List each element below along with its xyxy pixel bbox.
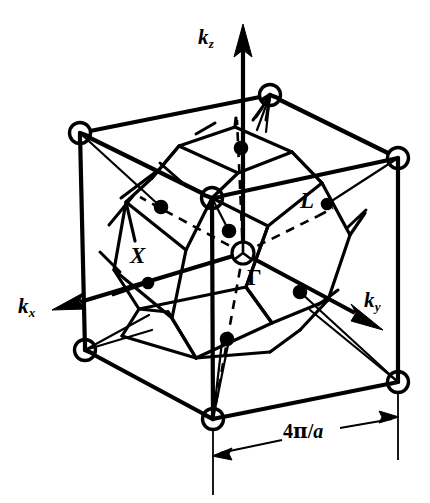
leader-dot-hex-upperleft [155, 201, 167, 213]
leader-lower-left-a [85, 315, 149, 350]
leader-hex-upperleft [80, 133, 161, 207]
cube-edge-vertical-left [80, 133, 85, 350]
dimension-line-group [212, 392, 399, 495]
cube-edge-bottom-left-front [85, 350, 213, 419]
leader-dot-X [143, 278, 153, 288]
dim-arrow-right [379, 411, 399, 423]
cube-edge-top-right-back [270, 95, 398, 158]
cube-edge-vertical-front [212, 198, 213, 419]
bz-edge-mid-horiz-cross [139, 287, 246, 309]
brillouin-zone-figure: kz kx ky X L Γ 4π/a [0, 0, 430, 503]
cube-edge-bottom-front-right [213, 382, 398, 419]
bz-edge-mid-horiz-left [186, 198, 212, 250]
dimension-label: 4π/a [283, 421, 323, 441]
leader-dot-right-hex [294, 286, 306, 298]
dim-arrow-left [212, 448, 232, 460]
symmetry-point-label-x: X [130, 244, 145, 267]
leader-dot-top-face [235, 142, 247, 154]
gamma-point-marker [232, 242, 254, 264]
axis-label-ky: ky [364, 290, 380, 313]
axis-label-kx: kx [18, 296, 35, 319]
leader-dot-L [322, 199, 332, 209]
symmetry-point-label-gamma: Γ [247, 266, 262, 289]
leader-lower-left-b [85, 330, 152, 350]
leader-right-hex-a [300, 292, 398, 382]
symmetry-point-label-l: L [300, 189, 314, 212]
axis-label-kz: kz [198, 27, 214, 50]
brillouin-zone-drawing [0, 0, 430, 503]
leader-dot-hex-front-upper [223, 225, 235, 237]
bz-edge-bottom-front2 [270, 330, 300, 352]
leader-dot-bottom-front [221, 333, 233, 345]
axis-kx-shaft [80, 253, 243, 302]
